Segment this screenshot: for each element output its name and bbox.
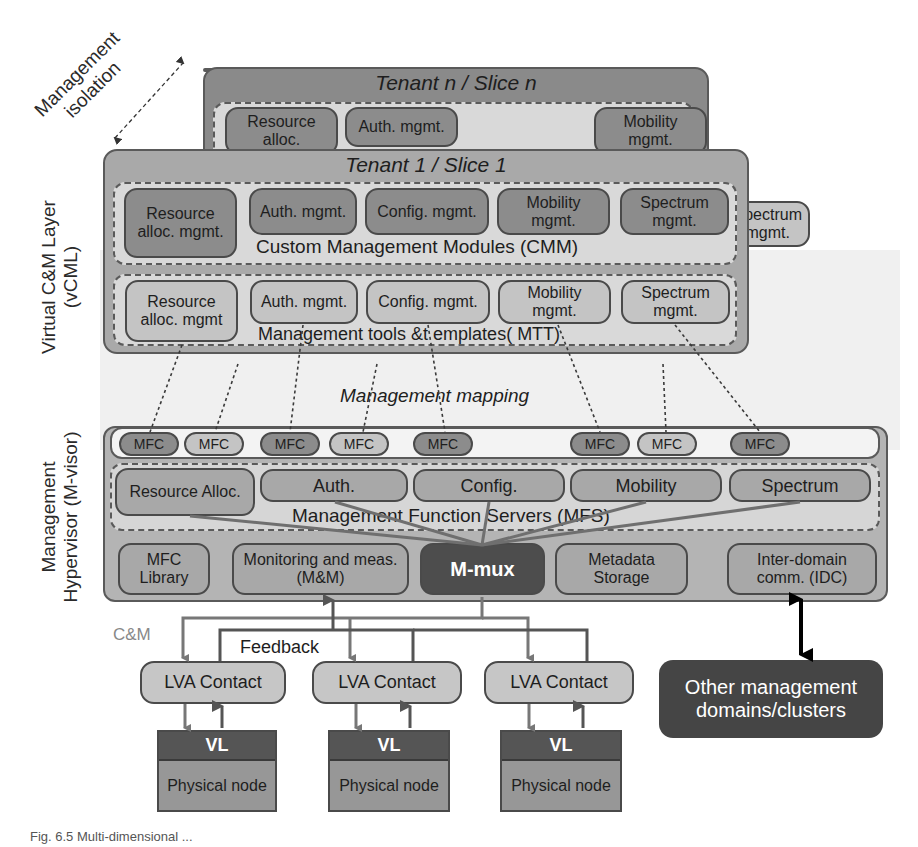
mfc-7[interactable]: MFC: [637, 432, 697, 456]
mfc-5[interactable]: MFC: [413, 432, 473, 456]
metadata-storage[interactable]: Metadata Storage: [555, 543, 688, 595]
cmm-auth-mgmt[interactable]: Auth. mgmt.: [249, 188, 357, 235]
vl-3: VL: [502, 732, 620, 761]
lva-contact-2[interactable]: LVA Contact: [312, 661, 462, 704]
feedback-label: Feedback: [240, 637, 319, 658]
cm-label: C&M: [113, 625, 151, 645]
mfc-6[interactable]: MFC: [570, 432, 630, 456]
mfc-3[interactable]: MFC: [260, 432, 320, 456]
tenant-n-mobility-mgmt[interactable]: Mobility mgmt.: [594, 107, 707, 155]
mfs-spectrum[interactable]: Spectrum: [729, 469, 871, 502]
mfc-1[interactable]: MFC: [119, 432, 179, 456]
mfs-label: Management Function Servers (MFS): [292, 505, 610, 527]
cmm-resource-alloc-mgmt[interactable]: Resource alloc. mgmt.: [124, 188, 237, 258]
monitoring-and-measurement[interactable]: Monitoring and meas. (M&M): [232, 543, 409, 595]
physical-node-1-label: Physical node: [159, 761, 275, 810]
physical-node-2[interactable]: VL Physical node: [328, 730, 450, 812]
management-isolation-label: Management isolation: [16, 13, 153, 150]
vl-1: VL: [159, 732, 275, 761]
physical-node-1[interactable]: VL Physical node: [157, 730, 277, 812]
mtt-spectrum-mgmt[interactable]: Spectrum mgmt.: [621, 280, 730, 324]
mfc-4[interactable]: MFC: [329, 432, 389, 456]
mfs-mobility[interactable]: Mobility: [570, 469, 722, 502]
inter-domain-comm[interactable]: Inter-domain comm. (IDC): [727, 543, 877, 595]
m-mux[interactable]: M-mux: [420, 543, 545, 595]
mfc-8[interactable]: MFC: [730, 432, 790, 456]
mtt-auth-mgmt[interactable]: Auth. mgmt.: [250, 280, 358, 324]
physical-node-3-label: Physical node: [502, 761, 620, 810]
cmm-config-mgmt[interactable]: Config. mgmt.: [365, 188, 489, 235]
mtt-label: Management tools &t emplates( MTT): [258, 324, 560, 345]
vcml-side-label: Virtual C&M Layer (vCML): [38, 177, 82, 377]
cmm-spectrum-mgmt[interactable]: Spectrum mgmt.: [620, 188, 729, 235]
mvisor-side-label: Management Hypervisor (M-visor): [38, 417, 82, 617]
tenant-n-resource-alloc[interactable]: Resource alloc.: [225, 107, 338, 155]
lva-contact-1[interactable]: LVA Contact: [140, 661, 286, 704]
mfc-2[interactable]: MFC: [184, 432, 244, 456]
management-mapping-label: Management mapping: [340, 385, 529, 407]
vl-2: VL: [330, 732, 448, 761]
mfs-auth[interactable]: Auth.: [260, 469, 408, 502]
physical-node-2-label: Physical node: [330, 761, 448, 810]
cmm-mobility-mgmt[interactable]: Mobility mgmt.: [497, 188, 610, 235]
mfs-config[interactable]: Config.: [413, 469, 565, 502]
physical-node-3[interactable]: VL Physical node: [500, 730, 622, 812]
mfc-library[interactable]: MFC Library: [118, 543, 210, 595]
mtt-resource-alloc-mgmt[interactable]: Resource alloc. mgmt: [125, 280, 238, 342]
tenant-n-title: Tenant n / Slice n: [205, 71, 707, 95]
mtt-mobility-mgmt[interactable]: Mobility mgmt.: [498, 280, 611, 324]
lva-contact-3[interactable]: LVA Contact: [484, 661, 634, 704]
other-management-domains[interactable]: Other management domains/clusters: [659, 660, 883, 738]
mtt-config-mgmt[interactable]: Config. mgmt.: [366, 280, 490, 324]
mfs-resource-alloc[interactable]: Resource Alloc.: [115, 468, 255, 516]
tenant-1-title: Tenant 1 / Slice 1: [105, 153, 747, 177]
tenant-n-auth-mgmt[interactable]: Auth. mgmt.: [345, 107, 458, 147]
figure-caption: Fig. 6.5 Multi-dimensional ...: [30, 829, 193, 844]
cmm-label: Custom Management Modules (CMM): [256, 236, 578, 258]
